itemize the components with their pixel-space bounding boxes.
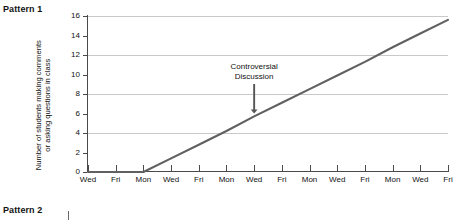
annotation-controversial-discussion: Controversial Discussion bbox=[198, 62, 310, 82]
annotation-arrow-icon bbox=[251, 84, 258, 113]
annotation-line-2: Discussion bbox=[198, 72, 310, 82]
series-line-pattern-1 bbox=[88, 20, 448, 172]
data-series-layer bbox=[0, 0, 457, 220]
annotation-line-1: Controversial bbox=[198, 62, 310, 72]
